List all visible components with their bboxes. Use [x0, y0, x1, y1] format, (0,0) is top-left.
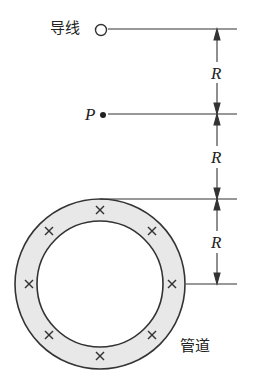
point-p-dot — [100, 112, 106, 118]
wire-icon — [96, 25, 107, 36]
dimension-label-r1: R — [211, 65, 221, 82]
dimension-label-r3: R — [211, 234, 221, 251]
diagram-canvas — [0, 0, 256, 384]
dimension-label-r2: R — [211, 149, 221, 166]
point-p-label: P — [85, 106, 95, 123]
pipe — [15, 199, 185, 369]
wire-label: 导线 — [50, 21, 80, 36]
pipe-label: 管道 — [180, 339, 210, 354]
